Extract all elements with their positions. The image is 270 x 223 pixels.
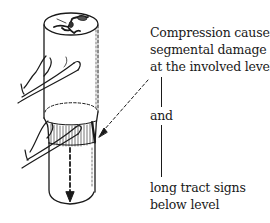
annotation-line-2: segmental damage <box>150 41 267 58</box>
upper-nerve-root <box>18 56 80 103</box>
lower-nerve-root <box>22 121 81 168</box>
annotation-line-4: long tract signs <box>150 179 246 196</box>
connector-line-upper <box>161 77 162 107</box>
annotation-connector: and <box>150 107 173 124</box>
connector-line-lower <box>161 125 162 177</box>
down-arrow-icon <box>66 148 74 202</box>
level-marker-ellipse <box>45 103 97 112</box>
annotation-line-5: below level <box>150 196 219 213</box>
compression-pointer-arrow <box>99 80 148 137</box>
cord-cross-section <box>44 13 98 35</box>
annotation-line-3: at the involved level <box>150 58 270 75</box>
annotation-line-1: Compression causes <box>150 24 270 41</box>
